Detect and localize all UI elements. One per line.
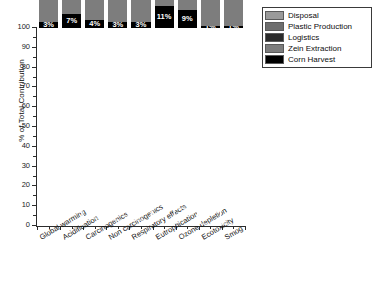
legend-swatch-disposal — [265, 11, 284, 20]
y-tick-label: 80 — [8, 63, 30, 71]
chart-figure: % of Total Contribution 1009080706050403… — [0, 0, 379, 302]
x-tick — [37, 226, 38, 230]
bar-segment[interactable]: 3% — [39, 22, 58, 28]
legend-swatch-corn — [265, 55, 284, 64]
legend-item[interactable]: Corn Harvest — [265, 54, 368, 65]
bar-column[interactable]: 9%65%4%22% — [178, 0, 197, 28]
bar-segment-label: 3% — [43, 21, 54, 29]
bar-column[interactable]: 1%32%41%26% — [201, 0, 220, 28]
bar-segment[interactable]: 56% — [224, 0, 243, 26]
plot-area: 3%41%46%9%7%49%34%9%4%27%61%8%3%34%48%14… — [37, 28, 245, 226]
bar-gap — [81, 28, 82, 226]
bar-column[interactable]: 3%54%29%14% — [131, 0, 150, 28]
connector-line — [39, 62, 243, 165]
legend-swatch-zein — [265, 44, 284, 53]
bar-segment-label: 3% — [136, 21, 147, 29]
legend-label: Zein Extraction — [288, 44, 341, 53]
bar-gap — [58, 28, 59, 226]
y-tick-minor — [33, 215, 36, 216]
y-tick-minor — [33, 77, 36, 78]
bar-segment-label: 11% — [157, 13, 172, 21]
bar-segment[interactable]: 9% — [178, 10, 197, 28]
legend-swatch-logistics — [265, 33, 284, 42]
legend-label: Corn Harvest — [288, 55, 335, 64]
x-axis-labels: Global warmingAcidificationCarcinogenics… — [0, 232, 379, 302]
legend-label: Disposal — [288, 11, 319, 20]
bar-gap — [197, 28, 198, 226]
x-tick — [245, 226, 246, 230]
y-tick-label: 60 — [8, 102, 30, 110]
legend-item[interactable]: Logistics — [265, 32, 368, 43]
bar-segment-label: 3% — [112, 21, 123, 29]
y-tick-label: 20 — [8, 181, 30, 189]
y-tick-label: 0 — [8, 221, 30, 229]
y-tick-label: 30 — [8, 162, 30, 170]
bar-segment[interactable]: 34% — [108, 0, 127, 22]
y-tick-minor — [33, 37, 36, 38]
y-tick-label: 90 — [8, 43, 30, 51]
legend-item[interactable]: Plastic Production — [265, 21, 368, 32]
connector-line — [39, 44, 243, 80]
y-tick-minor — [33, 195, 36, 196]
bar-segment[interactable]: 4% — [85, 20, 104, 28]
bar-segment[interactable]: 1% — [201, 26, 220, 28]
bar-segment[interactable]: 3% — [108, 22, 127, 28]
y-tick-label: 10 — [8, 201, 30, 209]
bar-column[interactable]: 3%41%46%9% — [39, 0, 58, 28]
y-tick-minor — [33, 136, 36, 137]
bar-segment[interactable]: 1% — [224, 26, 243, 28]
bar-column[interactable]: 4%27%61%8% — [85, 0, 104, 28]
connector-line — [39, 40, 243, 80]
y-tick-minor — [33, 176, 36, 177]
legend-swatch-plastic — [265, 22, 284, 31]
chart-legend: DisposalPlastic ProductionLogisticsZein … — [262, 7, 372, 68]
bar-column[interactable]: 1%56%35%6% — [224, 0, 243, 28]
segment-connector-lines — [37, 28, 245, 226]
bar-column[interactable]: 3%34%48%14% — [108, 0, 127, 28]
y-tick-label: 40 — [8, 142, 30, 150]
bar-segment[interactable]: 27% — [85, 0, 104, 20]
bar-gap — [174, 28, 175, 226]
bar-segment[interactable]: 7% — [62, 14, 81, 28]
bar-column[interactable]: 11%72%7%8% — [155, 0, 174, 28]
legend-label: Plastic Production — [288, 22, 352, 31]
y-tick-minor — [33, 57, 36, 58]
y-tick-label: 50 — [8, 122, 30, 130]
bar-segment[interactable]: 54% — [131, 0, 150, 22]
legend-label: Logistics — [288, 33, 319, 42]
bar-segment-label: 9% — [182, 15, 193, 23]
y-tick-minor — [33, 156, 36, 157]
y-tick-minor — [33, 96, 36, 97]
y-tick-label: 100 — [8, 23, 30, 31]
bar-gap — [127, 28, 128, 226]
bar-gap — [104, 28, 105, 226]
bar-column[interactable]: 7%49%34%9% — [62, 0, 81, 28]
legend-item[interactable]: Disposal — [265, 10, 368, 21]
bar-segment[interactable]: 11% — [155, 6, 174, 28]
bar-segment[interactable]: 32% — [201, 0, 220, 26]
bar-segment[interactable]: 72% — [155, 0, 174, 6]
bar-segment[interactable]: 49% — [62, 0, 81, 14]
bar-gap — [151, 28, 152, 226]
bar-segment[interactable]: 65% — [178, 0, 197, 10]
bar-gap — [220, 28, 221, 226]
y-tick-minor — [33, 116, 36, 117]
bar-segment-label: 7% — [66, 17, 77, 25]
bar-segment-label: 4% — [89, 20, 100, 28]
legend-item[interactable]: Zein Extraction — [265, 43, 368, 54]
bar-segment[interactable]: 3% — [131, 22, 150, 28]
bar-segment[interactable]: 41% — [39, 0, 58, 22]
y-tick-label: 70 — [8, 82, 30, 90]
